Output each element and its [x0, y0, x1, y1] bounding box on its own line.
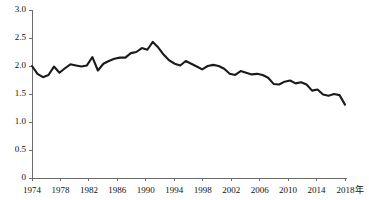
data-series-group	[32, 42, 345, 105]
data-line-rate	[32, 42, 345, 105]
axis-lines	[32, 10, 347, 178]
